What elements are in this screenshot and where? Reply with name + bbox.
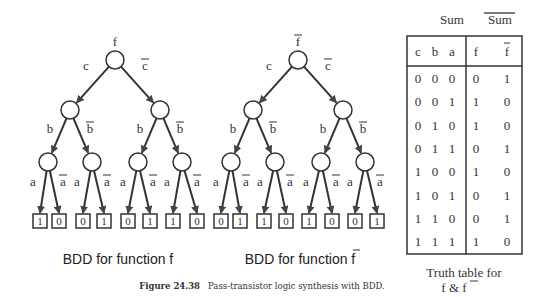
bdd-edge [221, 171, 229, 213]
edge-label-b: b [320, 121, 327, 136]
table-cell: 0 [449, 71, 456, 86]
table-cell: 0 [504, 94, 511, 109]
edge-label-b: b [47, 121, 54, 136]
edge-label-bbar: b [177, 121, 184, 136]
leaf-value: 1 [37, 215, 43, 227]
table-cell: 1 [432, 118, 439, 133]
table-cell: 1 [415, 211, 422, 226]
table-cell: 1 [473, 94, 480, 109]
leaf-value: 0 [283, 215, 289, 227]
bdd-edge [128, 171, 136, 213]
bdd-edge [323, 171, 332, 213]
edge-label-c: c [83, 58, 89, 73]
leaf-value: 0 [329, 215, 335, 227]
edge-label-a: a [30, 174, 36, 189]
table-cell: 1 [504, 188, 511, 203]
table-cell: 1 [449, 94, 456, 109]
bdd-edge [235, 118, 250, 153]
edge-label-cbar: c [142, 58, 148, 73]
table-cell: 0 [415, 141, 422, 156]
table-cell: 1 [415, 164, 422, 179]
bdd-fbar-c-node [244, 101, 262, 119]
leaf-value: 0 [56, 215, 62, 227]
bdd-f-b-node [39, 153, 57, 171]
bdd-edge [325, 118, 340, 153]
table-cell: 1 [415, 234, 422, 249]
bdd-fbar-b-node [266, 153, 284, 171]
table-cell: 0 [473, 71, 480, 86]
truth-table-caption-line1: Truth table for [426, 265, 502, 280]
edge-label-bbar: b [360, 121, 367, 136]
bdd-edge [264, 171, 273, 213]
bdd-edge [309, 171, 319, 213]
leaf-value: 0 [218, 215, 224, 227]
bdd-edge [367, 171, 377, 213]
leaf-value: 1 [306, 215, 312, 227]
bdd-edge [277, 171, 286, 213]
edge-label-abar: a [194, 174, 200, 189]
table-cell: 1 [432, 141, 439, 156]
figure-canvas: 10010110fccbbbbaaaaaaaa01101001fccbbbbaa… [0, 0, 539, 297]
truth-table: Sum Sum cbaff 00001001100101001101100101… [407, 12, 522, 295]
bdd-f-c-node [61, 101, 79, 119]
leaf-value: 0 [125, 215, 131, 227]
table-cell: 1 [473, 234, 480, 249]
bdd-edge [77, 67, 109, 103]
edge-label-abar: a [60, 174, 66, 189]
table-cell: 0 [449, 211, 456, 226]
sum-header: Sum [440, 12, 464, 27]
bdd-edge [83, 171, 90, 213]
table-cell: 1 [449, 234, 456, 249]
bdd-f-b-node [83, 153, 101, 171]
table-cell: 0 [473, 211, 480, 226]
table-cell: 0 [449, 118, 456, 133]
bdd-edge [142, 118, 157, 153]
edge-label-a: a [74, 174, 80, 189]
edge-label-a: a [347, 174, 353, 189]
leaf-value: 0 [352, 215, 358, 227]
edge-label-b: b [230, 121, 237, 136]
table-cell: 0 [415, 118, 422, 133]
bdd-fbar-b-node [356, 153, 374, 171]
edge-label-a: a [120, 174, 126, 189]
bdd-f-root-node [106, 51, 124, 69]
bdd-f-b-node [129, 153, 147, 171]
table-cell: 1 [449, 188, 456, 203]
column-header: a [449, 44, 455, 59]
edge-label-a: a [257, 174, 263, 189]
leaf-value: 1 [147, 215, 153, 227]
edge-label-abar: a [287, 174, 293, 189]
column-header: f [474, 44, 479, 59]
table-cell: 1 [504, 211, 511, 226]
edge-label-bbar: b [87, 121, 94, 136]
truth-table-caption-line2: f & f [441, 280, 467, 295]
table-cell: 0 [432, 164, 439, 179]
edge-label-abar: a [150, 174, 156, 189]
table-cell: 0 [504, 234, 511, 249]
leaf-value: 0 [80, 215, 86, 227]
leaf-value: 1 [374, 215, 380, 227]
bdd-edge [355, 171, 363, 213]
bdd-edge [173, 171, 180, 213]
bdd-edge [233, 171, 240, 213]
root-label: f [113, 34, 118, 49]
table-cell: 1 [473, 164, 480, 179]
bdd-fbar-c-node [334, 101, 352, 119]
bdd-fbar-b-node [222, 153, 240, 171]
leaf-value: 1 [261, 215, 267, 227]
bdd-fbar-b-node [312, 153, 330, 171]
table-cell: 0 [473, 141, 480, 156]
table-cell: 1 [415, 188, 422, 203]
column-header: f [505, 44, 510, 59]
table-cell: 1 [449, 141, 456, 156]
bdd-f-b-node [173, 153, 191, 171]
edge-label-a: a [303, 174, 309, 189]
bdd-f-c-node [151, 101, 169, 119]
leaf-value: 0 [194, 215, 200, 227]
leaf-value: 1 [170, 215, 176, 227]
table-cell: 0 [504, 118, 511, 133]
edge-label-abar: a [243, 174, 249, 189]
bdd-f-caption: BDD for function f [63, 251, 174, 267]
bdd-edge [260, 67, 292, 103]
edge-label-abar: a [377, 174, 383, 189]
